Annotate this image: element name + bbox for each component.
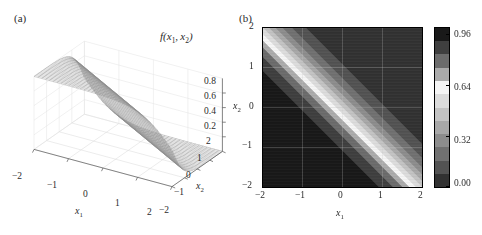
panel-a-x2-tick-2: 2 [206, 136, 211, 146]
panel-b-density-plot: (b) 2 1 0 −1 −2 x2 −2 −1 0 1 2 x1 0.96 0… [241, 0, 482, 235]
panel-b-x1-tick-2: 2 [418, 190, 423, 200]
panel-b-x1-tick--1: −1 [295, 190, 305, 200]
panel-a-x1-tick-0: 0 [83, 189, 88, 199]
panel-b-x2-tick-0: 0 [249, 101, 254, 111]
colorbar-tick-0.96: 0.96 [454, 29, 471, 39]
panel-a-x2-tick-1: 1 [197, 153, 202, 163]
panel-a-x2-tick-0: 0 [186, 170, 191, 180]
panel-b-x1-tick--2: −2 [255, 190, 265, 200]
panel-a-x1-tick-2: 2 [147, 207, 152, 217]
panel-a-z-tick-0.8: 0.8 [204, 76, 216, 86]
panel-a-x2-tick--1: −1 [174, 187, 184, 197]
panel-b-x2-tick--2: −2 [242, 180, 252, 190]
panel-b-x1-axis-title: x1 [336, 207, 344, 220]
panel-a-x1-tick--2: −2 [12, 171, 22, 181]
panel-a-z-tick-0.2: 0.2 [204, 121, 216, 131]
colorbar [434, 27, 450, 188]
colorbar-tick-0.64: 0.64 [454, 82, 471, 92]
panel-b-x2-tick-2: 2 [249, 21, 254, 31]
heatmap-plot-area [262, 27, 423, 188]
colorbar-canvas [435, 28, 449, 187]
panel-b-x2-axis-title: x2 [233, 100, 241, 113]
panel-b-x2-tick-1: 1 [249, 61, 254, 71]
figure-container: (a) f(x1, x2) −2 −1 0 1 2 x1 −2 −1 0 1 2… [0, 0, 482, 235]
colorbar-tick-0.32: 0.32 [454, 135, 471, 145]
panel-b-x2-tick--1: −1 [242, 140, 252, 150]
panel-a-z-tick-0.6: 0.6 [204, 91, 216, 101]
colorbar-tick-0.00: 0.00 [454, 178, 471, 188]
heatmap-canvas [263, 28, 422, 187]
panel-a-x1-tick-1: 1 [115, 198, 120, 208]
panel-b-x1-tick-1: 1 [378, 190, 383, 200]
panel-a-x1-axis-title: x1 [75, 205, 83, 218]
panel-a-surface-plot: (a) f(x1, x2) −2 −1 0 1 2 x1 −2 −1 0 1 2… [0, 0, 241, 235]
panel-a-x2-axis-title: x2 [196, 180, 204, 193]
panel-b-x1-tick-0: 0 [338, 190, 343, 200]
panel-a-x1-tick--1: −1 [47, 180, 57, 190]
surface-wireframe-svg [0, 0, 241, 235]
panel-a-x2-tick--2: −2 [159, 205, 169, 215]
panel-a-z-tick-0.4: 0.4 [204, 106, 216, 116]
